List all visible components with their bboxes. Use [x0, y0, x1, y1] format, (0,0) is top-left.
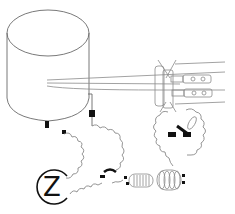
diagram-canvas: Z	[0, 0, 235, 214]
small-coil	[129, 174, 153, 187]
large-coil	[157, 170, 181, 190]
impedance-symbol: Z	[37, 170, 67, 204]
clamp-fixture	[155, 60, 225, 112]
schematic-drawing: Z	[0, 0, 235, 214]
symbol-label: Z	[43, 172, 61, 202]
cylinder-vessel	[7, 10, 89, 121]
cylinder-connector	[45, 94, 95, 134]
